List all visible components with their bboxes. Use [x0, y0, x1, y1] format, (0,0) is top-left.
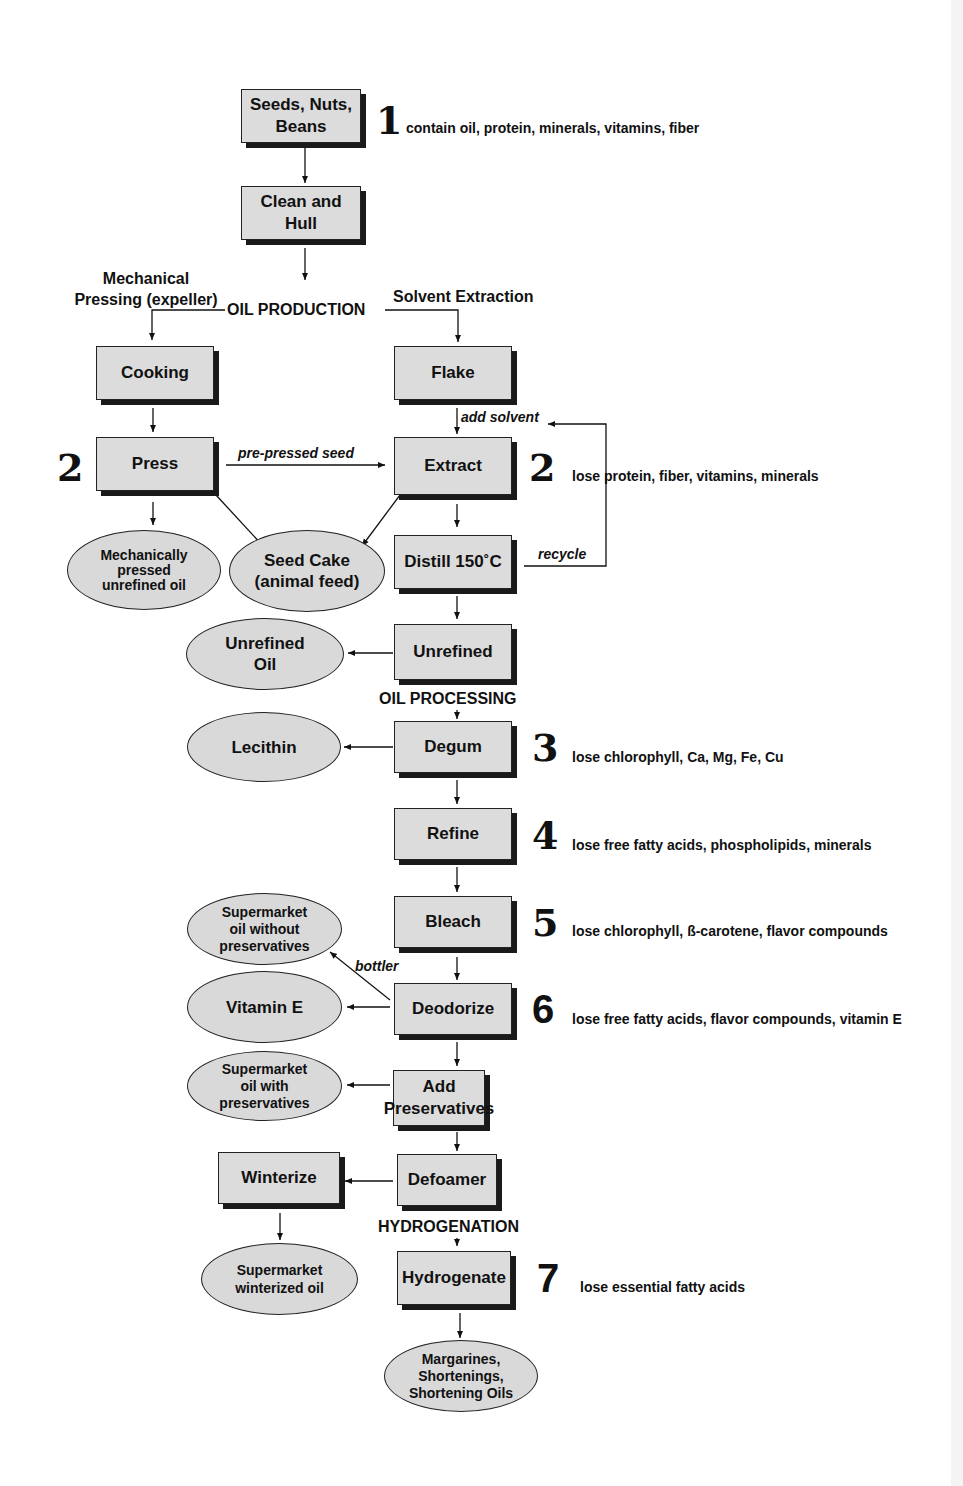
- oval-nopres-line2: oil without: [230, 921, 300, 937]
- step-note-3: lose chlorophyll, Ca, Mg, Fe, Cu: [572, 749, 784, 765]
- step-number-2-press: 2: [57, 449, 83, 487]
- oval-withpres-line3: preservatives: [219, 1095, 309, 1111]
- step-number-4: 4: [532, 817, 558, 855]
- box-press-label: Press: [132, 453, 178, 475]
- box-distill: Distill 150˚C: [394, 535, 512, 589]
- oval-marg-line3: Shortening Oils: [409, 1385, 513, 1401]
- oval-seedcake-line1: Seed Cake: [264, 551, 350, 570]
- step-number-7: 7: [537, 1259, 559, 1297]
- oval-mech-line2: pressed: [117, 562, 171, 578]
- edge-label-pre-pressed-seed: pre-pressed seed: [238, 445, 354, 461]
- oval-lecithin-label: Lecithin: [231, 739, 296, 756]
- box-unrefined-label: Unrefined: [413, 641, 492, 663]
- box-add-preservatives: AddPreservatives: [393, 1070, 485, 1126]
- step-number-2-extract: 2: [529, 449, 555, 487]
- box-addpres-line1: Add: [422, 1077, 455, 1096]
- oval-supermarket-winterized: Supermarketwinterized oil: [201, 1243, 358, 1315]
- box-distill-label: Distill 150˚C: [404, 551, 501, 573]
- oval-withpres-line1: Supermarket: [222, 1061, 308, 1077]
- oval-vitamine-label: Vitamin E: [226, 999, 303, 1016]
- box-winterize: Winterize: [218, 1152, 340, 1204]
- oval-marg-line1: Margarines,: [422, 1351, 501, 1367]
- branch-mech-line2: Pressing (expeller): [74, 291, 217, 308]
- box-defoamer: Defoamer: [397, 1154, 497, 1206]
- edge-label-recycle: recycle: [538, 546, 586, 562]
- box-winterize-label: Winterize: [241, 1167, 316, 1189]
- box-clean-and-hull: Clean andHull: [241, 186, 361, 240]
- step-note-5: lose chlorophyll, ß-carotene, flavor com…: [572, 923, 888, 939]
- box-degum-label: Degum: [424, 736, 482, 758]
- step-number-6: 6: [532, 990, 554, 1028]
- oval-nopres-line3: preservatives: [219, 938, 309, 954]
- box-cooking: Cooking: [96, 346, 214, 400]
- box-bleach: Bleach: [394, 896, 512, 948]
- oval-seed-cake: Seed Cake(animal feed): [229, 530, 385, 612]
- box-deodorize-label: Deodorize: [412, 998, 494, 1020]
- edge-label-add-solvent: add solvent: [461, 409, 539, 425]
- edge-label-bottler: bottler: [355, 958, 399, 974]
- oval-margarines-shortenings: Margarines,Shortenings,Shortening Oils: [384, 1340, 538, 1412]
- box-addpres-line2: Preservatives: [384, 1099, 495, 1118]
- box-seeds-nuts-beans: Seeds, Nuts,Beans: [241, 89, 361, 143]
- oval-marg-line2: Shortenings,: [418, 1368, 504, 1384]
- oval-withpres-line2: oil with: [240, 1078, 288, 1094]
- box-deodorize: Deodorize: [394, 983, 512, 1035]
- oval-lecithin: Lecithin: [187, 712, 341, 782]
- box-seeds-line2: Beans: [275, 117, 326, 136]
- step-note-6: lose free fatty acids, flavor compounds,…: [572, 1011, 902, 1027]
- oval-unrefoil-line2: Oil: [254, 655, 277, 674]
- box-clean-line1: Clean and: [260, 192, 341, 211]
- box-hydrogenate-label: Hydrogenate: [402, 1267, 506, 1289]
- box-seeds-line1: Seeds, Nuts,: [250, 95, 352, 114]
- oval-unrefined-oil: UnrefinedOil: [186, 618, 344, 690]
- section-oil-processing: OIL PROCESSING: [379, 690, 517, 708]
- box-flake-label: Flake: [431, 362, 474, 384]
- branch-label-mechanical: MechanicalPressing (expeller): [66, 268, 226, 310]
- box-cooking-label: Cooking: [121, 362, 189, 384]
- box-hydrogenate: Hydrogenate: [397, 1251, 511, 1305]
- box-refine: Refine: [394, 808, 512, 860]
- step-note-7: lose essential fatty acids: [580, 1279, 745, 1295]
- oval-seedcake-line2: (animal feed): [255, 572, 360, 591]
- box-extract-label: Extract: [424, 455, 482, 477]
- section-hydrogenation: HYDROGENATION: [378, 1218, 519, 1236]
- box-refine-label: Refine: [427, 823, 479, 845]
- step-note-4: lose free fatty acids, phospholipids, mi…: [572, 837, 872, 853]
- step-number-1: 1: [376, 102, 402, 140]
- oval-mech-line3: unrefined oil: [102, 577, 186, 593]
- step-note-1: contain oil, protein, minerals, vitamins…: [406, 120, 699, 136]
- oval-winter-line2: winterized oil: [235, 1280, 324, 1296]
- oval-supermarket-with-preservatives: Supermarketoil withpreservatives: [187, 1051, 342, 1121]
- box-defoamer-label: Defoamer: [408, 1169, 486, 1191]
- box-extract: Extract: [394, 437, 512, 495]
- oval-unrefoil-line1: Unrefined: [225, 634, 304, 653]
- oval-winter-line1: Supermarket: [237, 1262, 323, 1278]
- step-number-5: 5: [532, 904, 558, 942]
- oval-mech-line1: Mechanically: [100, 547, 187, 563]
- step-number-3: 3: [532, 729, 558, 767]
- box-clean-line2: Hull: [285, 214, 317, 233]
- box-flake: Flake: [394, 346, 512, 400]
- oval-vitamin-e: Vitamin E: [187, 971, 342, 1043]
- branch-label-solvent: Solvent Extraction: [393, 288, 533, 306]
- oval-supermarket-no-preservatives: Supermarketoil withoutpreservatives: [187, 893, 342, 965]
- branch-mech-line1: Mechanical: [103, 270, 189, 287]
- box-degum: Degum: [394, 721, 512, 773]
- oval-nopres-line1: Supermarket: [222, 904, 308, 920]
- section-oil-production: OIL PRODUCTION: [227, 301, 365, 319]
- oval-mechanically-pressed-oil: Mechanicallypressedunrefined oil: [67, 530, 221, 610]
- step-note-2: lose protein, fiber, vitamins, minerals: [572, 468, 819, 484]
- box-bleach-label: Bleach: [425, 911, 481, 933]
- box-press: Press: [96, 437, 214, 491]
- box-unrefined: Unrefined: [394, 624, 512, 680]
